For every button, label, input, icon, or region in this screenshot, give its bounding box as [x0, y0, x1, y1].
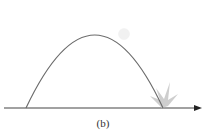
impact-burst-icon [150, 82, 178, 108]
axis-arrow-icon [194, 105, 202, 111]
ball-icon [119, 29, 130, 40]
trajectory-arc [26, 35, 163, 108]
figure-caption: (b) [0, 117, 206, 129]
